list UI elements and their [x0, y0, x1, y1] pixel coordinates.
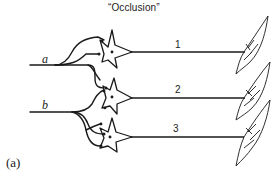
motoneuron-2 [102, 78, 132, 114]
motor-unit-label-3: 3 [173, 123, 179, 134]
input-fiber-b [30, 112, 104, 134]
motoneuron-1 [100, 30, 132, 68]
input-label-a: a [42, 52, 48, 67]
occlusion-diagram [0, 0, 274, 179]
muscle-fiber-2 [236, 62, 270, 120]
muscle-fiber-3 [236, 100, 270, 166]
motor-unit-label-1: 1 [175, 39, 181, 50]
muscle-fiber-1 [236, 16, 268, 74]
figure-title: “Occlusion” [108, 2, 160, 13]
panel-label: (a) [6, 155, 20, 171]
input-label-b: b [42, 98, 48, 113]
motor-unit-label-2: 2 [175, 84, 181, 95]
